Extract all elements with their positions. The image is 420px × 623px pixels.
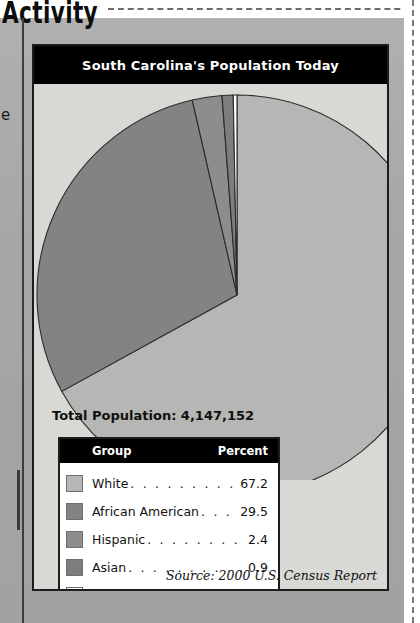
legend-header-group: Group bbox=[92, 444, 131, 458]
chart-body: Total Population: 4,147,152 Group Percen… bbox=[34, 84, 387, 589]
chart-legend: Group Percent White. . . . . . . . . . .… bbox=[58, 437, 280, 589]
section-heading: Activity bbox=[2, 0, 98, 30]
chart-source-note: Source: 2000 U.S. Census Report bbox=[166, 568, 377, 583]
margin-rule-lower bbox=[17, 470, 20, 530]
legend-swatch bbox=[66, 475, 83, 492]
legend-label: Hispanic bbox=[92, 532, 145, 547]
legend-percent-value: 67.2 bbox=[240, 476, 268, 491]
legend-leader-dots: . . . . . . . . . . . . . . . . . . . . bbox=[130, 476, 238, 491]
legend-label: Native American bbox=[92, 588, 196, 590]
dashed-rule-horizontal bbox=[108, 8, 420, 10]
legend-swatch bbox=[66, 559, 83, 576]
margin-text-fragment: e bbox=[1, 106, 10, 124]
legend-leader-dots: . . . . . . . . . . . . . . . . . . . . bbox=[198, 588, 246, 590]
legend-swatch bbox=[66, 587, 83, 590]
legend-leader-dots: . . . . . . . . . . . . . . . . . . . . bbox=[201, 504, 238, 519]
legend-header-row: Group Percent bbox=[60, 439, 278, 463]
legend-percent-value: 2.4 bbox=[248, 532, 268, 547]
legend-percent-value: 0.3 bbox=[248, 588, 268, 590]
margin-rule bbox=[22, 18, 24, 623]
chart-title: South Carolina's Population Today bbox=[82, 58, 339, 73]
legend-label: African American bbox=[92, 504, 199, 519]
legend-label: White bbox=[92, 476, 128, 491]
chart-title-bar: South Carolina's Population Today bbox=[34, 46, 387, 84]
total-population-label: Total Population: 4,147,152 bbox=[52, 408, 254, 423]
legend-swatch bbox=[66, 531, 83, 548]
legend-row: White. . . . . . . . . . . . . . . . . .… bbox=[60, 469, 278, 497]
legend-row: Hispanic. . . . . . . . . . . . . . . . … bbox=[60, 525, 278, 553]
legend-leader-dots: . . . . . . . . . . . . . . . . . . . . bbox=[147, 532, 246, 547]
legend-label: Asian bbox=[92, 560, 126, 575]
legend-percent-value: 29.5 bbox=[240, 504, 268, 519]
legend-swatch bbox=[66, 503, 83, 520]
chart-panel: South Carolina's Population Today Total … bbox=[32, 44, 389, 591]
legend-row: African American. . . . . . . . . . . . … bbox=[60, 497, 278, 525]
legend-header-percent: Percent bbox=[218, 444, 268, 458]
textbook-page: Activity e South Carolina's Population T… bbox=[0, 0, 420, 623]
dashed-rule-vertical bbox=[412, 0, 414, 623]
